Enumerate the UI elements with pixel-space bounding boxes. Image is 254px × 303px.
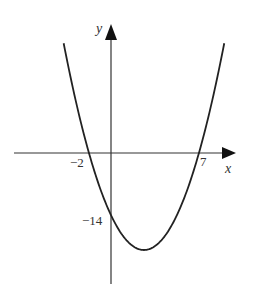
- y-tick-label-neg14: −14: [82, 213, 103, 228]
- parabola-graph: y x −2 7 −14: [0, 0, 254, 303]
- x-axis-label: x: [224, 161, 232, 176]
- x-tick-label-neg2: −2: [70, 155, 84, 170]
- y-axis-label: y: [94, 21, 103, 36]
- x-tick-label-7: 7: [200, 154, 207, 169]
- x-axis-arrow-icon: [222, 147, 236, 159]
- y-axis-arrow-icon: [105, 24, 117, 40]
